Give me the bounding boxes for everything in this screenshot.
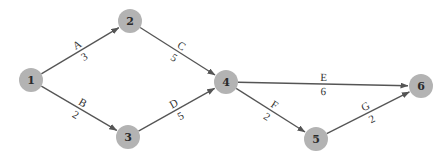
duration-label: 2 bbox=[262, 110, 273, 123]
arrow-icon bbox=[138, 88, 214, 131]
duration-label: 2 bbox=[366, 112, 376, 125]
node-4: 4 bbox=[214, 70, 238, 94]
node-label: 4 bbox=[222, 76, 230, 89]
node-label: 3 bbox=[124, 131, 132, 144]
node-1: 1 bbox=[19, 68, 43, 92]
duration-label: 6 bbox=[320, 85, 326, 97]
duration-label: 2 bbox=[71, 108, 82, 121]
duration-label: 5 bbox=[169, 51, 180, 64]
edge-b: B2 bbox=[41, 86, 116, 130]
edge-d: D5 bbox=[138, 88, 214, 131]
arrow-icon bbox=[236, 88, 305, 132]
network-diagram: A3B2C5D5E6F2G2 123456 bbox=[0, 0, 448, 161]
node-label: 5 bbox=[312, 133, 320, 146]
nodes-layer: 123456 bbox=[19, 9, 433, 151]
node-label: 6 bbox=[417, 80, 425, 93]
edge-e: E6 bbox=[238, 71, 408, 97]
node-label: 2 bbox=[126, 15, 134, 28]
duration-label: 5 bbox=[175, 109, 186, 122]
node-6: 6 bbox=[409, 74, 433, 98]
node-5: 5 bbox=[304, 127, 328, 151]
edge-a: A3 bbox=[41, 28, 119, 74]
edge-c: C5 bbox=[140, 27, 215, 75]
node-3: 3 bbox=[116, 125, 140, 149]
node-label: 1 bbox=[27, 74, 35, 87]
node-2: 2 bbox=[118, 9, 142, 33]
arrow-icon bbox=[140, 27, 215, 75]
edge-g: G2 bbox=[327, 92, 410, 134]
edge-f: F2 bbox=[236, 88, 305, 132]
arrow-icon bbox=[41, 28, 119, 74]
arrow-icon bbox=[41, 86, 116, 130]
activity-label: F bbox=[269, 98, 281, 111]
activity-label: E bbox=[320, 71, 327, 83]
arrow-icon bbox=[327, 92, 410, 134]
duration-label: 3 bbox=[79, 50, 90, 63]
